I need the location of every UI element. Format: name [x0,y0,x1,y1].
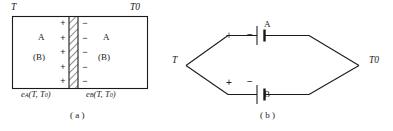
positive-sign: + [60,48,65,57]
panel-b-bottom-branch-label: B [264,90,270,99]
panel-b-temperature-left-label: T [172,56,177,66]
panel-b-circuit-loop: T T0 + − + − A B ( b ) [160,0,393,131]
panel-b-top-battery-negative-terminal: − [247,30,253,40]
panel-a-caption: ( a ) [70,111,85,120]
panel-b-graphics [160,0,393,131]
panel-b-bottom-battery-negative-terminal: − [247,77,253,87]
loop-edge-upper-left [186,36,228,66]
panel-a-temperature-right-label: T0 [130,3,140,13]
emf-arguments-tail: ) [113,89,116,99]
panel-a-negative-charge-column: − − − − − [80,19,90,86]
figure-root: T T0 A (B) A (B) + + + + + − − − − − eA(… [0,0,393,131]
emf-arguments-tail: ) [48,89,51,99]
loop-edge-lower-right [309,66,359,95]
loop-edge-lower-left [186,66,228,95]
positive-sign: + [60,19,65,28]
panel-a-right-material-secondary: (B) [98,53,110,62]
negative-sign: − [82,19,87,28]
panel-a-emf-left-expression: eA(T, T0) [21,90,51,99]
positive-sign: + [60,77,65,86]
panel-b-temperature-right-subscript: 0 [374,55,379,65]
positive-sign: + [60,63,65,72]
junction-hatched-band [69,17,78,88]
positive-sign: + [60,34,65,43]
loop-edge-upper-right [309,36,359,66]
panel-a-temperature-left-label: T [11,3,16,13]
panel-a-left-material-primary: A [38,33,45,42]
negative-sign: − [82,63,87,72]
panel-b-top-branch-label: A [264,20,271,29]
panel-a-emf-right-expression: eB(T, T0) [86,90,116,99]
panel-b-bottom-battery-positive-terminal: + [226,78,232,88]
panel-b-top-battery-positive-terminal: + [226,31,232,41]
panel-b-caption: ( b ) [260,111,275,120]
panel-a-left-material-secondary: (B) [33,53,45,62]
negative-sign: − [82,34,87,43]
emf-arguments: (T, T [94,89,110,99]
panel-a-temperature-right-subscript: 0 [135,2,140,12]
panel-a-right-material-primary: A [103,33,110,42]
panel-b-temperature-right-label: T0 [369,56,379,66]
negative-sign: − [82,77,87,86]
panel-a-positive-charge-column: + + + + + [58,19,68,86]
negative-sign: − [82,48,87,57]
emf-arguments: (T, T [29,89,45,99]
